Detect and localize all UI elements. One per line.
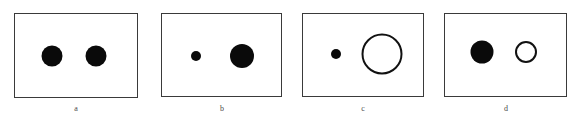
figure-root: abcd (0, 0, 579, 124)
panel-d-label: d (504, 104, 508, 114)
panel-a-right-circle (86, 46, 107, 67)
panel-b-left-circle (191, 51, 201, 61)
panel-c-left-circle (331, 49, 341, 59)
panel-d-left-circle (471, 41, 494, 64)
panel-a-frame (14, 13, 138, 98)
panel-a-label: a (74, 104, 78, 114)
panel-a-left-circle (42, 46, 63, 67)
panel-c-label: c (361, 104, 365, 114)
panel-d-frame (444, 13, 567, 97)
panel-b-frame (161, 13, 282, 97)
panel-b-right-circle (230, 44, 254, 68)
panel-c-right-circle (362, 34, 403, 75)
panel-b-label: b (220, 104, 224, 114)
panel-d-right-circle (515, 41, 537, 63)
